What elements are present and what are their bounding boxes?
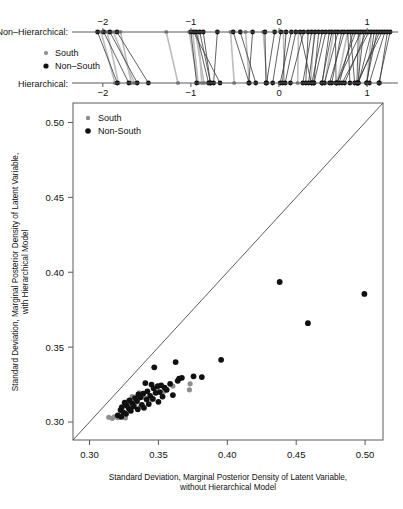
- y-axis-title-line-1: Standard Deviation, Marginal Posterior D…: [11, 153, 20, 391]
- scatter-point: [277, 279, 283, 285]
- top-panel-upper-tick-label: 1: [365, 16, 370, 27]
- legend-label-non-south: Non–South: [55, 61, 100, 71]
- top-panel-upper-tick-label: −2: [97, 16, 108, 27]
- x-axis-title-line-2: without Hierarchical Model: [179, 483, 276, 492]
- scatter-legend: South Non-South: [85, 113, 141, 136]
- scatter-point: [123, 411, 129, 417]
- scatter-point: [160, 394, 166, 400]
- y-axis-ticks: 0.300.350.400.450.50: [46, 117, 74, 428]
- slopegraph-panel: Non–Hierarchical: Hierarchical: South No…: [0, 0, 403, 100]
- scatter-point: [175, 378, 181, 384]
- scatter-point: [135, 406, 141, 412]
- hierarchical-row-label: Hierarchical:: [18, 79, 68, 89]
- top-panel-lower-tick-label: 0: [276, 87, 281, 98]
- slopegraph-content: [95, 30, 392, 86]
- x-axis-title-line-1: Standard Deviation, Marginal Posterior D…: [109, 473, 347, 482]
- scatter-point: [362, 291, 368, 297]
- scatter-point: [150, 396, 156, 402]
- scatter-point: [153, 390, 159, 396]
- scatter-point: [187, 387, 192, 392]
- scatter-point: [167, 381, 173, 387]
- y-tick-label: 0.35: [46, 342, 65, 353]
- scatter-point: [118, 414, 124, 420]
- top-panel-upper-tick-label: 0: [276, 16, 281, 27]
- scatter-point: [156, 399, 162, 405]
- top-panel-lower-tick-label: −1: [186, 87, 197, 98]
- top-panel-upper-tick-label: −1: [186, 16, 197, 27]
- top-panel-lower-tick-label: −2: [97, 87, 108, 98]
- scatter-point: [218, 357, 224, 363]
- scatter-point: [110, 416, 115, 421]
- scatter-point: [142, 380, 148, 386]
- scatter-point: [305, 320, 311, 326]
- scatter-point: [128, 408, 134, 414]
- scatter-plot-panel: 0.300.350.400.450.50 0.300.350.400.450.5…: [0, 100, 403, 509]
- scatter-point: [199, 374, 205, 380]
- scatter-point: [170, 392, 176, 398]
- scatter-legend-marker-non-south: [85, 128, 91, 134]
- scatter-point: [173, 359, 179, 365]
- y-tick-label: 0.45: [46, 192, 65, 203]
- y-tick-label: 0.30: [46, 416, 65, 427]
- scatter-points: [106, 279, 367, 421]
- x-tick-label: 0.45: [287, 449, 306, 460]
- identity-reference-line: [73, 103, 383, 440]
- x-tick-label: 0.50: [356, 449, 375, 460]
- scatter-legend-marker-south: [86, 116, 90, 120]
- scatter-point: [146, 401, 152, 407]
- legend-label-south: South: [55, 48, 79, 58]
- scatter-legend-label-south: South: [98, 113, 122, 123]
- y-axis-title-line-2: with Hierarchical Model: [21, 230, 30, 316]
- scatter-legend-label-non-south: Non-South: [98, 126, 141, 136]
- scatter-point: [164, 387, 170, 393]
- y-tick-label: 0.40: [46, 267, 65, 278]
- x-tick-label: 0.35: [149, 449, 168, 460]
- figure-container: Non–Hierarchical: Hierarchical: South No…: [0, 0, 403, 509]
- legend-marker-non-south: [43, 63, 48, 68]
- scatter-point: [191, 373, 197, 379]
- non-hierarchical-row-label: Non–Hierarchical:: [0, 27, 68, 37]
- y-tick-label: 0.50: [46, 117, 65, 128]
- top-panel-lower-tick-label: 1: [365, 87, 370, 98]
- scatter-point: [188, 381, 193, 386]
- x-axis-ticks: 0.300.350.400.450.50: [80, 440, 374, 460]
- scatter-point: [141, 405, 147, 411]
- scatter-point: [151, 364, 157, 370]
- x-tick-label: 0.30: [80, 449, 99, 460]
- x-tick-label: 0.40: [218, 449, 237, 460]
- legend-marker-south: [44, 51, 48, 55]
